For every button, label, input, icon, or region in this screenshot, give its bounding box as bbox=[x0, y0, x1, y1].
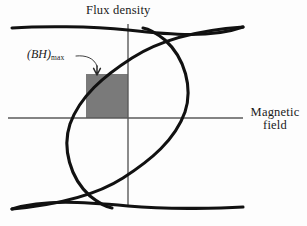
bh-max-subscript: max bbox=[51, 53, 65, 62]
x-axis-title-line1: Magnetic bbox=[251, 105, 300, 119]
x-axis-title: Magnetic field bbox=[246, 106, 304, 132]
hysteresis-figure: Flux density Magnetic field (BH)max bbox=[0, 0, 307, 226]
bh-max-annotation-label: (BH)max bbox=[27, 48, 65, 62]
bh-max-symbol: BH bbox=[31, 47, 47, 61]
x-axis-title-line2: field bbox=[263, 118, 287, 132]
bh-max-shaded-rectangle bbox=[86, 74, 128, 118]
y-axis-title: Flux density bbox=[86, 4, 151, 17]
